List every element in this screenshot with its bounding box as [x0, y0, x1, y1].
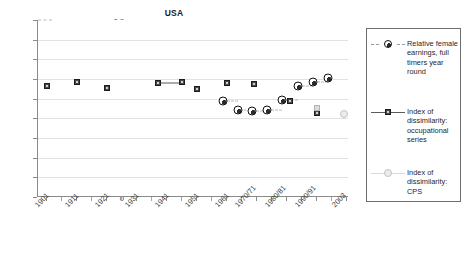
gridline — [38, 59, 348, 60]
data-point-occupational — [287, 98, 293, 104]
gridline — [38, 40, 348, 41]
dashed-line-icon — [371, 44, 379, 45]
x-tick — [181, 197, 182, 201]
data-point-occupational — [74, 79, 80, 85]
x-tick — [91, 197, 92, 201]
data-point-earnings — [234, 105, 243, 114]
data-point-occupational — [155, 80, 161, 86]
data-point-occupational — [314, 110, 320, 116]
legend-key-cps — [371, 168, 405, 180]
data-point-occupational — [44, 83, 50, 89]
x-tick — [61, 197, 62, 201]
x-tick — [151, 197, 152, 201]
chart-title: USA — [0, 8, 348, 18]
data-point-occupational — [179, 79, 185, 85]
gridline — [38, 118, 348, 119]
x-tick — [316, 197, 317, 201]
gridline — [38, 158, 348, 159]
data-point-cps — [314, 105, 320, 111]
x-tick — [286, 197, 287, 201]
data-point-occupational — [224, 80, 230, 86]
data-point-earnings — [278, 96, 287, 105]
legend-key-occupational — [371, 107, 405, 119]
legend-label-earnings: Relative female earnings, full timers ye… — [407, 39, 460, 77]
circle-marker-icon — [384, 40, 392, 48]
data-point-cps — [340, 110, 348, 118]
data-point-earnings — [219, 96, 228, 105]
legend-key-earnings — [371, 39, 405, 51]
series-segment-earnings — [38, 20, 52, 21]
data-point-earnings — [248, 106, 257, 115]
x-tick-label: 1901 — [33, 191, 51, 209]
data-point-earnings — [309, 78, 318, 87]
data-point-occupational — [104, 85, 110, 91]
x-tick — [211, 197, 212, 201]
square-marker-icon — [385, 109, 391, 115]
gridline — [38, 177, 348, 178]
gridline — [38, 138, 348, 139]
legend-label-cps: Index of dissimilarity: CPS — [407, 168, 460, 196]
dashed-line-icon — [397, 44, 405, 45]
gridline — [38, 99, 348, 100]
legend-label-occupational: Index of dissimilarity: occupational ser… — [407, 107, 460, 145]
x-tick — [256, 197, 257, 201]
x-tick — [121, 197, 122, 201]
plot-area — [37, 20, 348, 197]
circle-marker-icon — [384, 169, 392, 177]
data-point-occupational — [251, 81, 257, 87]
legend: Relative female earnings, full timers ye… — [366, 28, 461, 202]
data-point-earnings — [263, 105, 272, 114]
chart-container: USA 0.9 0.8 0.7 0.6 0.5 0.4 0.3 0.2 0.1 … — [0, 0, 465, 259]
data-point-earnings — [324, 74, 333, 83]
data-point-occupational — [194, 86, 200, 92]
data-point-earnings — [294, 81, 303, 90]
gridline — [38, 79, 348, 80]
